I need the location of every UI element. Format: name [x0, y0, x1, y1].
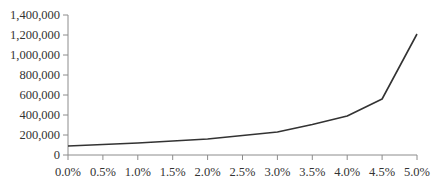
x-axis: 0.0%0.5%1.0%1.5%2.0%2.5%3.0%3.5%4.0%4.5%…: [55, 155, 430, 179]
x-tick-label: 3.0%: [264, 165, 290, 179]
y-tick-label: 800,000: [19, 68, 60, 82]
x-tick-label: 4.5%: [369, 165, 395, 179]
x-tick-label: 1.5%: [160, 165, 186, 179]
y-tick-label: 1,200,000: [10, 28, 60, 42]
y-tick-label: 600,000: [19, 88, 60, 102]
y-tick-label: 1,400,000: [10, 8, 60, 22]
y-tick-label: 0: [54, 148, 60, 162]
x-tick-label: 2.0%: [195, 165, 221, 179]
y-tick-label: 1,000,000: [10, 48, 60, 62]
chart-canvas: 0200,000400,000600,000800,0001,000,0001,…: [0, 0, 443, 187]
x-tick-label: 5.0%: [404, 165, 430, 179]
series-line-1: [68, 34, 417, 146]
x-tick-label: 0.5%: [90, 165, 116, 179]
x-tick-label: 2.5%: [229, 165, 255, 179]
y-axis: 0200,000400,000600,000800,0001,000,0001,…: [10, 8, 68, 162]
line-chart: 0200,000400,000600,000800,0001,000,0001,…: [0, 0, 443, 187]
x-tick-label: 1.0%: [125, 165, 151, 179]
x-tick-label: 3.5%: [299, 165, 325, 179]
x-tick-label: 0.0%: [55, 165, 81, 179]
x-tick-label: 4.0%: [334, 165, 360, 179]
series-layer: [68, 34, 417, 146]
y-tick-label: 400,000: [19, 108, 60, 122]
y-tick-label: 200,000: [19, 128, 60, 142]
